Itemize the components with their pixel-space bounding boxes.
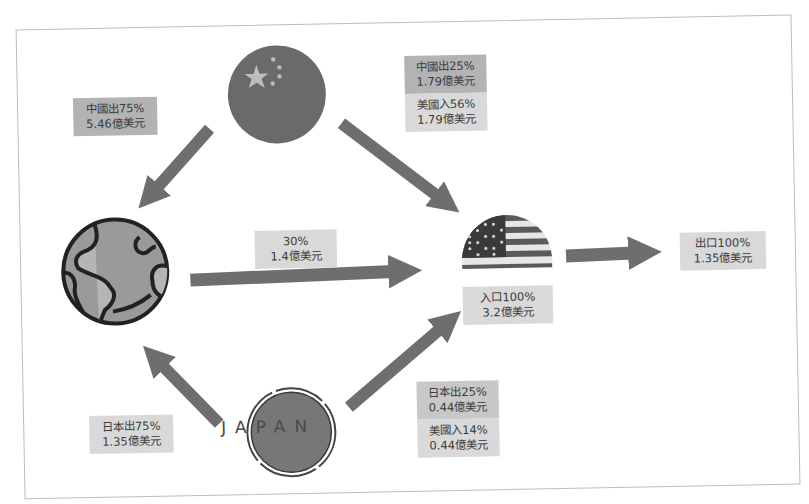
label-line: 中國出75% (79, 101, 151, 117)
label-usa-import-from-china: 美國入56% 1.79億美元 (405, 92, 488, 132)
label-line: 入口100% (469, 289, 547, 305)
japan-wordmark: JAPAN (221, 416, 316, 438)
label-line: 5.46億美元 (79, 116, 151, 132)
label-usa-import: 入口100% 3.2億美元 (463, 285, 554, 325)
usa-flag-icon (461, 214, 552, 269)
label-usa-export: 出口100% 1.35億美元 (680, 231, 767, 271)
label-world-to-usa: 30% 1.4億美元 (254, 229, 337, 269)
label-line: 30% (261, 233, 331, 249)
label-line: 1.4億美元 (261, 248, 331, 264)
label-japan-to-world: 日本出75% 1.35億美元 (89, 414, 174, 454)
label-line: 3.2億美元 (469, 304, 547, 320)
label-line: 美國入14% (423, 422, 493, 438)
diagram-stage: JAPAN 中國出75% 5.46億美元 中國出25% 1.79億美元 美國入5… (0, 0, 809, 504)
label-line: 中國出25% (410, 59, 480, 75)
arrow-world-to-usa (190, 271, 405, 280)
label-line: 1.79億美元 (411, 112, 481, 128)
label-line: 1.79億美元 (411, 74, 481, 90)
label-china-to-usa: 中國出25% 1.79億美元 美國入56% 1.79億美元 (404, 54, 487, 132)
label-japan-export: 日本出25% 0.44億美元 (416, 380, 499, 420)
china-flag-icon (227, 44, 327, 144)
label-line: 美國入56% (411, 97, 481, 113)
label-line: 1.35億美元 (686, 250, 760, 266)
label-line: 0.44億美元 (424, 437, 494, 453)
label-usa-import-from-japan: 美國入14% 0.44億美元 (417, 418, 500, 458)
label-line: 出口100% (686, 235, 760, 251)
label-japan-to-usa: 日本出25% 0.44億美元 美國入14% 0.44億美元 (416, 380, 499, 458)
label-line: 日本出25% (422, 384, 492, 400)
label-line: 1.35億美元 (95, 434, 167, 450)
label-china-to-world: 中國出75% 5.46億美元 (73, 97, 158, 137)
label-line: 0.44億美元 (423, 399, 493, 415)
arrow-usa-to-export (566, 252, 645, 256)
label-china-export: 中國出25% 1.79億美元 (404, 54, 487, 94)
label-line: 日本出75% (95, 419, 167, 435)
globe-icon (62, 219, 169, 332)
arrow-china-to-world (148, 129, 211, 197)
arrow-china-to-usa (341, 121, 447, 205)
